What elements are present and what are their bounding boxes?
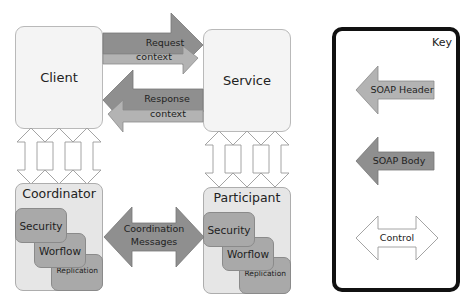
coordinator-label: Coordinator — [16, 186, 102, 201]
participant-label: Participant — [204, 190, 290, 205]
worflow-label: Worflow — [39, 245, 81, 257]
service-node: Service — [203, 29, 291, 132]
control-label: Control — [357, 232, 437, 244]
client-label: Client — [40, 70, 78, 85]
request-context-label: context — [124, 51, 184, 63]
response-label: Response — [130, 93, 204, 105]
messages-label: Messages — [114, 236, 194, 248]
participant-security-module: Security — [203, 212, 255, 247]
soap-body-label: SOAP Body — [360, 155, 438, 167]
worflow-label: Worflow — [227, 248, 269, 260]
response-context-label: context — [138, 108, 198, 120]
client-coordinator-control-arrows — [17, 128, 103, 184]
request-label: Request — [130, 37, 200, 49]
service-label: Service — [223, 73, 271, 88]
security-label: Security — [19, 220, 62, 232]
coordination-label: Coordination — [114, 223, 194, 235]
security-label: Security — [207, 224, 250, 236]
coordinator-security-module: Security — [15, 208, 67, 243]
client-node: Client — [15, 26, 103, 129]
service-participant-control-arrows — [205, 131, 291, 187]
key-title: Key — [432, 36, 452, 49]
soap-header-label: SOAP Header — [363, 84, 441, 96]
